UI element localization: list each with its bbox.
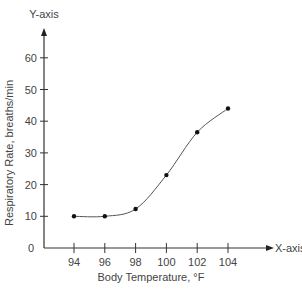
y-tick-label: 10: [25, 210, 37, 222]
x-axis-label: Body Temperature, °F: [98, 271, 205, 283]
y-tick-label: 0: [28, 242, 34, 254]
x-tick-label: 100: [157, 256, 175, 268]
x-tick-label: 104: [219, 256, 237, 268]
y-tick-label: 20: [25, 179, 37, 191]
x-tick-label: 96: [99, 256, 111, 268]
y-tick-label: 30: [25, 147, 37, 159]
data-point: [226, 106, 230, 110]
y-tick-label: 60: [25, 52, 37, 64]
y-axis-label: Respiratory Rate, breaths/min: [3, 80, 15, 226]
x-tick-label: 98: [129, 256, 141, 268]
data-markers: [72, 106, 230, 218]
data-point: [195, 130, 199, 134]
x-axis-name: X-axis: [275, 242, 302, 254]
data-point: [133, 207, 137, 211]
y-tick-label: 40: [25, 115, 37, 127]
data-point: [72, 214, 76, 218]
data-curve: [74, 109, 228, 217]
y-axis-name: Y-axis: [29, 8, 59, 20]
data-point: [103, 214, 107, 218]
x-tick-label: 94: [68, 256, 80, 268]
y-tick-label: 50: [25, 84, 37, 96]
x-ticks: 949698100102104: [68, 243, 237, 268]
data-point: [164, 173, 168, 177]
x-tick-label: 102: [188, 256, 206, 268]
chart: Y-axis X-axis Respiratory Rate, breaths/…: [0, 0, 302, 290]
